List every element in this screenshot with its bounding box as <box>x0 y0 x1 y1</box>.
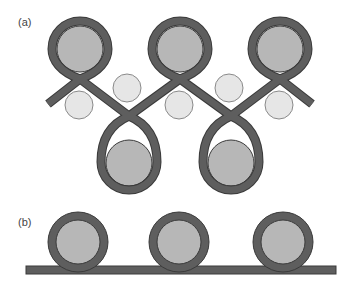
small-roller <box>113 74 141 102</box>
small-roller <box>65 91 93 119</box>
large-roller <box>106 140 152 186</box>
panel-b-flat <box>26 212 336 274</box>
small-roller <box>165 91 193 119</box>
diagram <box>0 0 350 284</box>
large-roller-wrapped <box>257 216 309 268</box>
large-roller-wrapped <box>153 216 205 268</box>
panel-a-serpentine <box>48 21 312 190</box>
small-roller <box>215 74 243 102</box>
large-roller-wrapped <box>52 216 104 268</box>
large-roller <box>208 140 254 186</box>
small-roller <box>265 91 293 119</box>
